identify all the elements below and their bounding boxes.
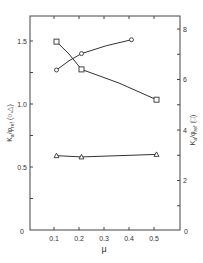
series-line-square: [57, 42, 157, 100]
circle-marker-icon: [55, 68, 59, 72]
square-marker-icon: [79, 67, 84, 72]
y-left-tick-label: 1.5: [17, 38, 27, 45]
origin-label-right: 0: [184, 228, 188, 235]
x-axis-label: μ: [101, 244, 106, 254]
square-marker-icon: [154, 97, 159, 102]
origin-label-left: 0: [20, 228, 24, 235]
square-marker-icon: [54, 39, 59, 44]
y-left-axis-label: Ka/φref(○,△): [6, 104, 15, 142]
series-line-circle: [57, 40, 132, 70]
y-right-axis-ticks: 2468: [177, 26, 187, 206]
y-right-label-ref: ref: [192, 125, 198, 131]
triangle-marker-icon: [154, 152, 159, 157]
y-left-tick-label: 0.5: [17, 164, 27, 171]
y-right-tick-label: 8: [183, 26, 187, 33]
svg-text:Ka/φref(○,△): Ka/φref(○,△): [6, 104, 15, 142]
data-series: [54, 38, 159, 159]
x-tick-label: 0.5: [149, 235, 159, 242]
circle-marker-icon: [80, 52, 84, 56]
x-tick-label: 0.4: [124, 235, 134, 242]
y-left-label-ref: ref: [9, 121, 15, 127]
y-right-tick-label: 2: [183, 177, 187, 184]
x-tick-label: 0.1: [49, 235, 59, 242]
y-right-tick-label: 6: [183, 76, 187, 83]
y-right-axis-label: Ka/φref(□): [189, 115, 198, 146]
chart-svg: 0.10.20.30.40.5 0.51.01.5 2468 0 0 μ Ka/…: [0, 0, 203, 263]
y-left-axis-ticks: 0.51.01.5: [17, 38, 33, 199]
y-right-tick-label: 4: [183, 127, 187, 134]
circle-marker-icon: [130, 38, 134, 42]
y-left-label-markers: (○,△): [6, 104, 14, 120]
series-line-triangle: [57, 154, 157, 157]
y-right-label-markers: (□): [189, 115, 197, 124]
triangle-marker-icon: [79, 154, 84, 159]
y-left-tick-label: 1.0: [17, 101, 27, 108]
chart-container: 0.10.20.30.40.5 0.51.01.5 2468 0 0 μ Ka/…: [0, 0, 203, 263]
x-tick-label: 0.2: [74, 235, 84, 242]
triangle-marker-icon: [54, 153, 59, 158]
svg-text:Ka/φref(□): Ka/φref(□): [189, 115, 198, 146]
plot-frame: [30, 16, 180, 230]
x-tick-label: 0.3: [99, 235, 109, 242]
